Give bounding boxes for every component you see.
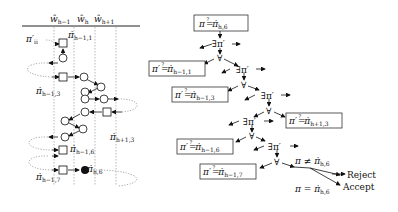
right-decision-tree: π=?π̇h,6: [149, 15, 376, 195]
label-pi-h-1-6: π̇h−1,6: [69, 144, 95, 155]
reject-label: Reject: [347, 170, 376, 180]
diagram-canvas: ŵh−1 ŵh ŵh+1 π′ii π̇h−1,1 π̇h−1,3 π̇h+1,…: [0, 0, 398, 212]
forall-node-1: ∀: [217, 53, 223, 63]
label-pi-h-1-3: π̇h−1,3: [35, 86, 61, 97]
exists-node-2: ∃π′: [236, 65, 249, 75]
exists-node-5: ∃π′: [268, 142, 281, 152]
forall-node-4: ∀: [249, 131, 255, 141]
exists-node-3: ∃π′: [261, 91, 274, 101]
forall-node-3: ∀: [266, 106, 272, 116]
label-pi-prime-ii: π′ii: [25, 34, 38, 45]
column-header-w-h1: ŵh+1: [94, 14, 114, 25]
column-header-w-h-1: ŵh−1: [50, 14, 70, 25]
state-circles: [59, 54, 108, 141]
left-trace-diagram: ŵh−1 ŵh ŵh+1 π′ii π̇h−1,1 π̇h−1,3 π̇h+1,…: [22, 14, 140, 186]
label-pi-hp1-3: π̇h+1,3: [109, 132, 135, 143]
label-pi-h-1-7: π̇h−1,7: [35, 172, 61, 183]
accept-state-filled: [81, 166, 89, 174]
reject-condition: π ≠ π̇h,6: [294, 156, 330, 167]
forall-node-5: ∀: [274, 157, 280, 167]
exists-node-4: ∃π′: [243, 117, 256, 127]
accept-condition: π = π̇h,6: [294, 184, 330, 195]
column-header-w-h: ŵh: [77, 14, 89, 25]
exists-node-1: ∃π′: [212, 39, 225, 49]
label-pi-h-1-1: π̇h−1,1: [67, 30, 92, 41]
forall-node-2: ∀: [241, 80, 247, 90]
accept-label: Accept: [342, 182, 375, 192]
